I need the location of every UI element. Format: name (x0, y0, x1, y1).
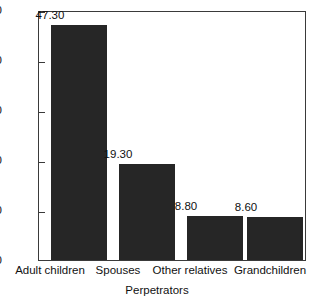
y-tick-label-40: 40 (0, 55, 2, 67)
y-tick-label-10: 10 (0, 205, 2, 217)
y-tick-label-30: 30 (0, 105, 2, 117)
bar-adult-children (51, 25, 107, 260)
x-axis-title: Perpetrators (0, 284, 314, 296)
bar-other-relatives (187, 216, 243, 260)
bar-value-spouses: 19.30 (90, 149, 146, 161)
caption-cutoff (4, 301, 124, 307)
bar-value-other-relatives: 8.80 (158, 201, 214, 213)
plot-area (38, 11, 306, 261)
x-tick-label-other-relatives: Other relatives (148, 264, 232, 276)
y-tick-label-0: 0 (0, 255, 2, 267)
x-tick-label-adult-children: Adult children (14, 264, 86, 276)
y-tick-mark-0 (39, 260, 45, 261)
bar-value-adult-children: 47.30 (22, 10, 78, 22)
bar-series (39, 12, 305, 260)
bar-chart-figure: Percent (%) 50 40 30 20 10 0 47.30 19.30… (0, 0, 314, 307)
bar-grandchildren (247, 217, 303, 260)
x-tick-label-grandchildren: Grandchildren (228, 264, 312, 276)
y-tick-label-50: 50 (0, 5, 2, 17)
bar-value-grandchildren: 8.60 (218, 202, 274, 214)
y-tick-label-20: 20 (0, 155, 2, 167)
x-tick-label-spouses: Spouses (92, 264, 144, 276)
